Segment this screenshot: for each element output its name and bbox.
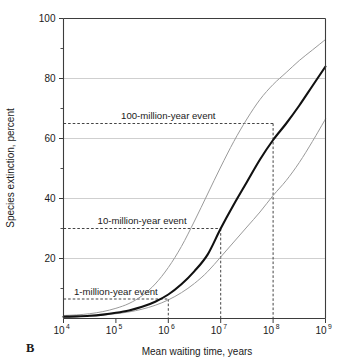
y-axis-title: Species extinction, percent xyxy=(5,108,16,228)
curve-best-estimate xyxy=(64,67,326,317)
annotation-label-100-million-year-event: 100-million-year event xyxy=(121,110,216,121)
x-tick-base-10000: 10 xyxy=(53,325,65,336)
x-tick-exponent-10000000: 7 xyxy=(223,323,227,330)
x-tick-label-100000000: 108 xyxy=(263,323,280,336)
x-tick-base-1000000: 10 xyxy=(158,325,170,336)
panel-label-b: B xyxy=(26,341,34,355)
x-tick-exponent-100000: 5 xyxy=(119,323,123,330)
x-tick-exponent-100000000: 8 xyxy=(276,323,280,330)
x-tick-base-100000: 10 xyxy=(106,325,118,336)
axes xyxy=(64,19,326,319)
x-tick-label-100000: 105 xyxy=(106,323,123,336)
x-tick-label-10000000: 107 xyxy=(211,323,228,336)
y-tick-label-80: 80 xyxy=(44,73,56,84)
x-tick-exponent-1000000: 6 xyxy=(171,323,175,330)
extinction-vs-waiting-time-figure: 20406080100 104105106107108109 1-million… xyxy=(0,0,341,362)
annotation-label-10-million-year-event: 10-million-year event xyxy=(98,215,187,226)
x-tick-exponent-1000000000: 9 xyxy=(328,323,332,330)
x-tick-label-1000000: 106 xyxy=(158,323,175,336)
x-tick-base-100000000: 10 xyxy=(263,325,275,336)
x-tick-label-10000: 104 xyxy=(53,323,70,336)
annotation-labels: 1-million-year event10-million-year even… xyxy=(74,110,216,297)
tick-marks xyxy=(59,19,326,324)
y-tick-label-40: 40 xyxy=(44,193,56,204)
x-tick-base-10000000: 10 xyxy=(211,325,223,336)
data-curves xyxy=(64,40,326,318)
chart-canvas: 20406080100 104105106107108109 1-million… xyxy=(0,0,341,362)
curve-upper-bound xyxy=(64,40,326,316)
x-tick-label-1000000000: 109 xyxy=(315,323,332,336)
x-axis-title: Mean waiting time, years xyxy=(142,346,253,357)
gridlines xyxy=(64,79,326,259)
y-tick-label-100: 100 xyxy=(39,13,56,24)
x-axis-tick-labels: 104105106107108109 xyxy=(53,323,332,336)
y-tick-label-60: 60 xyxy=(44,133,56,144)
x-tick-exponent-10000: 4 xyxy=(66,323,70,330)
annotation-label-1-million-year-event: 1-million-year event xyxy=(74,286,158,297)
y-axis-tick-labels: 20406080100 xyxy=(39,13,56,264)
x-tick-base-1000000000: 10 xyxy=(315,325,327,336)
y-tick-label-20: 20 xyxy=(44,253,56,264)
